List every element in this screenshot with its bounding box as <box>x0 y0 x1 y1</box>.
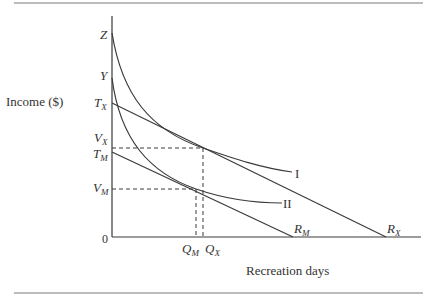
label-TX: TX <box>94 95 107 112</box>
y-axis-label: Income ($) <box>6 94 63 109</box>
x-axis-label: Recreation days <box>246 263 329 278</box>
label-VX: VX <box>94 130 108 147</box>
label-RX: RX <box>386 221 401 238</box>
origin-label: 0 <box>102 232 108 246</box>
label-QM: QM <box>182 241 199 258</box>
label-Y: Y <box>100 68 109 83</box>
label-TM: TM <box>93 146 108 163</box>
indifference-curve-I <box>112 33 292 172</box>
indifference-curve-II <box>112 78 282 203</box>
curve-label-I: I <box>295 166 299 181</box>
economics-diagram: I II Income ($) Z Y TX VX TM VM 0 QM QX … <box>0 0 434 300</box>
label-VM: VM <box>93 180 109 197</box>
label-RM: RM <box>293 221 310 238</box>
label-QX: QX <box>205 241 220 258</box>
curve-label-II: II <box>283 196 292 211</box>
label-Z: Z <box>100 27 108 42</box>
